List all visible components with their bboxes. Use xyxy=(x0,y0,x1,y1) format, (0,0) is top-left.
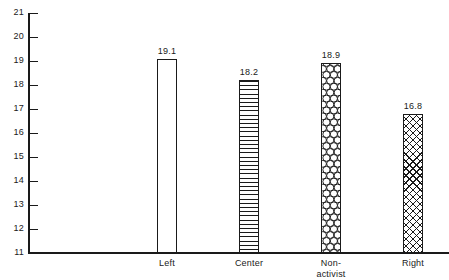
y-axis-tick-label-wrap: 12 xyxy=(0,224,24,233)
y-axis-tick-label: 15 xyxy=(2,152,24,161)
y-axis-tick-label-wrap: 14 xyxy=(0,176,24,185)
y-axis-tick-label-wrap: 21 xyxy=(0,8,24,17)
bar-chart: 1112131415161718192021 19.1Left18.2Cente… xyxy=(0,0,449,280)
x-axis-category-label-line: Non- xyxy=(296,258,366,269)
x-axis-category-label: Center xyxy=(214,258,284,269)
y-axis-tick-label: 18 xyxy=(2,80,24,89)
y-axis-tick-label-wrap: 15 xyxy=(0,152,24,161)
x-axis-category-label-line: Right xyxy=(378,258,448,269)
y-axis-tick xyxy=(30,109,38,110)
y-axis-tick xyxy=(30,13,38,14)
y-axis-tick xyxy=(30,253,38,254)
x-axis-category-label: Right xyxy=(378,258,448,269)
bar-value-label: 16.8 xyxy=(393,102,433,111)
circles-pattern xyxy=(322,64,340,252)
y-axis-tick-label-wrap: 11 xyxy=(0,248,24,257)
y-axis-tick-label-wrap: 18 xyxy=(0,80,24,89)
y-axis-tick xyxy=(30,205,38,206)
y-axis-tick-label: 21 xyxy=(2,8,24,17)
y-axis-tick-label: 19 xyxy=(2,56,24,65)
y-axis-tick xyxy=(30,229,38,230)
bar-right xyxy=(403,114,423,253)
bar-center xyxy=(239,80,259,253)
bar-left xyxy=(157,59,177,253)
y-axis-tick xyxy=(30,133,38,134)
x-axis-category-label: Non-activist xyxy=(296,258,366,279)
y-axis-tick-label-wrap: 16 xyxy=(0,128,24,137)
y-axis-tick-label: 11 xyxy=(2,248,24,257)
y-axis-tick xyxy=(30,37,38,38)
x-axis-category-label-line: activist xyxy=(296,269,366,280)
y-axis-tick-label: 17 xyxy=(2,104,24,113)
y-axis-tick xyxy=(30,85,38,86)
y-axis-line xyxy=(28,13,30,254)
y-axis-tick-label: 20 xyxy=(2,32,24,41)
x-axis-category-label: Left xyxy=(132,258,202,269)
y-axis-tick-label: 13 xyxy=(2,200,24,209)
y-axis-tick-label: 16 xyxy=(2,128,24,137)
x-axis-category-label-line: Left xyxy=(132,258,202,269)
bar-value-label: 18.2 xyxy=(229,68,269,77)
bar-non-activist xyxy=(321,63,341,253)
y-axis-tick-label-wrap: 20 xyxy=(0,32,24,41)
y-axis-tick-label-wrap: 19 xyxy=(0,56,24,65)
y-axis-tick xyxy=(30,157,38,158)
y-axis-tick xyxy=(30,61,38,62)
y-axis-tick-label-wrap: 17 xyxy=(0,104,24,113)
y-axis-tick-label: 14 xyxy=(2,176,24,185)
bar-value-label: 19.1 xyxy=(147,47,187,56)
y-axis-tick-label-wrap: 13 xyxy=(0,200,24,209)
y-axis-tick xyxy=(30,181,38,182)
x-axis-category-label-line: Center xyxy=(214,258,284,269)
y-axis-tick-label: 12 xyxy=(2,224,24,233)
bar-value-label: 18.9 xyxy=(311,51,351,60)
